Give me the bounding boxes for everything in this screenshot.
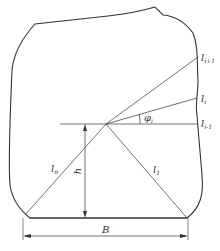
- label-sub: i+1: [204, 57, 215, 64]
- label-sub: i: [204, 98, 206, 105]
- label-l-i-minus-1: li-1: [201, 119, 212, 130]
- ray-l-1: [106, 124, 187, 218]
- label-sub: i: [151, 117, 153, 124]
- angle-arc-phi: [139, 114, 140, 124]
- label-phi-i: φi: [144, 113, 153, 124]
- label-sub: i-1: [204, 123, 212, 130]
- label-sub: n: [54, 168, 58, 175]
- label-l-1: l1: [153, 165, 160, 176]
- label-B: B: [102, 225, 109, 235]
- arrow-up-icon: [83, 124, 87, 131]
- section-outline: [9, 7, 202, 218]
- label-base: h: [72, 168, 83, 174]
- label-base: B: [102, 224, 109, 235]
- ray-l-n: [25, 124, 106, 215]
- arrow-down-icon: [83, 211, 87, 218]
- rock-section-diagram: [0, 0, 220, 251]
- label-l-i-plus-1: li+1: [201, 53, 215, 64]
- label-h: h: [73, 168, 83, 174]
- label-l-i: li: [201, 94, 206, 105]
- label-base: φ: [144, 112, 151, 123]
- arrow-right-icon: [180, 234, 188, 238]
- label-l-n: ln: [51, 164, 58, 175]
- arrow-left-icon: [23, 234, 31, 238]
- label-sub: 1: [156, 169, 160, 176]
